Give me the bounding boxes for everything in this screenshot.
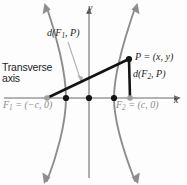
hyperbola-right-branch [114, 3, 140, 184]
point-p-close: ) [170, 51, 173, 62]
focus-2-label: F2 = (c, 0) [116, 100, 159, 112]
segment-p-f2 [129, 59, 130, 98]
focus-2-equals: = ( [126, 99, 141, 110]
x-axis-label: x [174, 95, 178, 106]
leader-line-dF1P [68, 42, 83, 83]
focus-1-equals: = (− [13, 99, 35, 110]
y-axis-label: y [88, 3, 92, 14]
transverse-axis-label: Transverse axis [2, 62, 52, 84]
focus-2-suffix: , 0) [145, 99, 158, 110]
origin-dot [86, 95, 92, 101]
y-axis [86, 7, 92, 178]
hyperbola-figure: Transverse axis d(F1, P) d(F2, P) P = (x… [0, 0, 187, 185]
distance-f2-p-label: d(F2, P) [133, 69, 166, 81]
point-p-dot [126, 56, 132, 62]
point-p-equals: = ( [141, 51, 156, 62]
point-p-label: P = (x, y) [135, 52, 173, 63]
distance-f1-p-suffix: , P) [65, 27, 79, 38]
focus-1-label: F1 = (−c, 0) [3, 100, 52, 112]
focus-1-suffix: , 0) [39, 99, 52, 110]
distance-f2-p-suffix: , P) [151, 68, 165, 79]
vertex-left-dot [63, 95, 69, 101]
figure-canvas [0, 0, 187, 185]
transverse-axis-label-line2: axis [2, 73, 52, 84]
distance-f1-p-label: d(F1, P) [47, 28, 80, 40]
